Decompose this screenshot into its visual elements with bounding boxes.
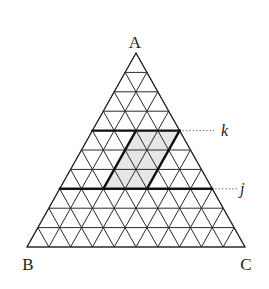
triangular-grid (27, 53, 245, 247)
leader-lines (183, 131, 237, 189)
ternary-diagram: A B C k j (0, 0, 269, 289)
diagonal-grid-line (223, 228, 234, 247)
vertex-label-b: B (22, 255, 33, 274)
vertex-label-c: C (240, 255, 251, 274)
diagonal-grid-line (38, 228, 49, 247)
vertex-label-a: A (129, 33, 142, 52)
line-label-j: j (238, 180, 245, 198)
line-label-k: k (221, 122, 229, 139)
